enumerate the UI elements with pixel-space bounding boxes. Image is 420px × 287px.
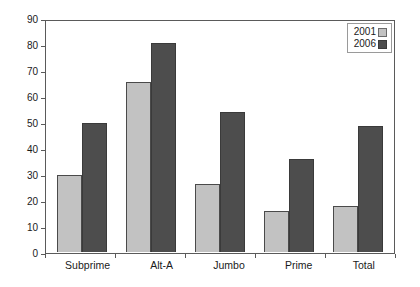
x-axis-label: Jumbo [213,259,245,271]
y-axis-tick-label: 20 [27,197,41,207]
y-axis-tick: 10 [27,222,45,234]
bar [358,126,383,252]
bar [195,184,220,252]
bar [57,175,82,252]
x-axis-tick-mark [325,254,326,258]
y-axis-tick: 70 [27,66,45,78]
x-axis-tick-mark [255,254,256,258]
bar-group [264,22,314,252]
x-axis-tick-mark [185,254,186,258]
x-axis-tick-mark [395,254,396,258]
y-axis-tick-label: 0 [32,249,41,259]
plot-area: 20012006 [45,20,395,254]
y-axis-tick-label: 30 [27,171,41,181]
y-axis-tick-label: 80 [27,41,41,51]
y-axis-tick: 80 [27,40,45,52]
y-axis-tick-label: 70 [27,67,41,77]
bar-group [333,22,383,252]
bars-layer [47,22,393,252]
y-axis-tick: 90 [27,14,45,26]
x-axis-tick-mark [45,254,46,258]
y-axis-tick: 50 [27,118,45,130]
x-axis-tick-mark [115,254,116,258]
x-axis-label: Total [353,259,375,271]
bar [289,159,314,252]
chart-legend: 20012006 [347,23,392,53]
legend-item: 2006 [354,39,387,49]
x-axis-label: Prime [285,259,312,271]
legend-swatch [378,40,387,49]
y-axis-tick: 0 [32,248,45,260]
legend-swatch [378,28,387,37]
y-axis-tick-label: 40 [27,145,41,155]
y-axis-tick-label: 50 [27,119,41,129]
y-axis-tick-label: 90 [27,15,41,25]
bar [220,112,245,252]
y-axis-tick-label: 60 [27,93,41,103]
bar [333,206,358,252]
y-axis-tick: 30 [27,170,45,182]
y-axis-tick: 60 [27,92,45,104]
x-axis-label: Alt-A [150,259,173,271]
bar [126,82,151,252]
legend-label: 2001 [354,27,376,37]
y-axis: 9080706050403020100 [0,20,45,254]
bar [151,43,176,252]
x-axis-label: Subprime [65,259,110,271]
bar-group [195,22,245,252]
bar-chart-figure: 9080706050403020100 20012006 SubprimeAlt… [0,0,420,287]
y-axis-tick: 20 [27,196,45,208]
legend-label: 2006 [354,39,376,49]
bar-group [126,22,176,252]
bar [82,123,107,252]
y-axis-tick-label: 10 [27,223,41,233]
bar-group [57,22,107,252]
bar [264,211,289,252]
legend-item: 2001 [354,27,387,37]
x-axis-labels: SubprimeAlt-AJumboPrimeTotal [45,259,395,279]
y-axis-tick: 40 [27,144,45,156]
